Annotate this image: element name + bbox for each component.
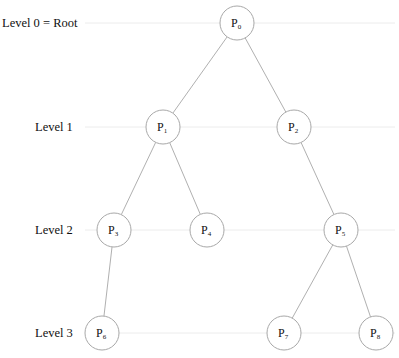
node-p5: P5 xyxy=(324,213,358,247)
edge-P0-P1 xyxy=(173,37,227,113)
node-p3: P3 xyxy=(97,213,131,247)
node-p0: P0 xyxy=(220,6,254,40)
tree-nodes: P0P1P2P3P4P5P6P7P8 xyxy=(85,6,393,350)
node-p6: P6 xyxy=(85,316,119,350)
tree-edges xyxy=(104,37,371,318)
level-label: Level 0 = Root xyxy=(2,16,78,30)
tree-diagram: Level 0 = RootLevel 1Level 2Level 3 P0P1… xyxy=(0,0,399,358)
edge-P2-P5 xyxy=(301,142,334,214)
edge-P1-P3 xyxy=(121,142,155,214)
edge-P3-P6 xyxy=(104,247,112,316)
level-label: Level 1 xyxy=(35,120,73,134)
node-p7: P7 xyxy=(267,316,301,350)
level-guide-lines xyxy=(85,23,395,333)
level-label: Level 3 xyxy=(35,326,73,340)
edge-P5-P7 xyxy=(292,245,333,318)
level-label: Level 2 xyxy=(35,223,73,237)
node-p8: P8 xyxy=(359,316,393,350)
node-p1: P1 xyxy=(146,110,180,144)
node-p4: P4 xyxy=(190,213,224,247)
node-p2: P2 xyxy=(277,110,311,144)
level-labels: Level 0 = RootLevel 1Level 2Level 3 xyxy=(2,16,78,340)
edge-P5-P8 xyxy=(346,246,370,317)
edge-P0-P2 xyxy=(245,38,286,112)
edge-P1-P4 xyxy=(170,143,201,215)
